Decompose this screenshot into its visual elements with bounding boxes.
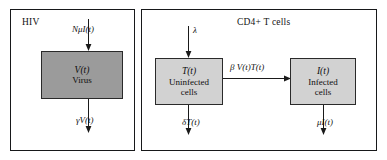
box-infected-label-line2: cells bbox=[315, 87, 332, 97]
arrow-infection bbox=[223, 75, 291, 82]
panel-hiv-title: HIV bbox=[22, 17, 40, 27]
box-virus-symbol: V(t) bbox=[75, 65, 90, 76]
label-virus-production: NμI(t) bbox=[72, 24, 94, 34]
box-infected-label-line1: Infected bbox=[308, 77, 337, 87]
label-tcell-source: λ bbox=[193, 25, 197, 35]
box-virus-label: Virus bbox=[72, 75, 91, 85]
box-uninfected-label-line2: cells bbox=[181, 87, 198, 97]
diagram-canvas: HIV NμI(t) V(t) Virus γV(t) CD4+ T cells… bbox=[0, 0, 387, 160]
box-uninfected-symbol: T(t) bbox=[182, 66, 196, 77]
box-infected-cells: I(t) Infected cells bbox=[290, 58, 356, 105]
box-infected-symbol: I(t) bbox=[317, 66, 329, 77]
panel-cd4-title: CD4+ T cells bbox=[237, 17, 290, 27]
label-uninfected-death: δT(t) bbox=[182, 117, 200, 127]
arrow-tcell-source bbox=[185, 26, 192, 58]
label-virus-clearance: γV(t) bbox=[76, 115, 94, 125]
box-virus: V(t) Virus bbox=[41, 51, 123, 99]
label-infection-rate: β V(t)T(t) bbox=[230, 62, 264, 72]
box-uninfected-cells: T(t) Uninfected cells bbox=[155, 58, 223, 105]
label-infected-death: μI(t) bbox=[317, 117, 333, 127]
box-uninfected-label-line1: Uninfected bbox=[169, 77, 209, 87]
